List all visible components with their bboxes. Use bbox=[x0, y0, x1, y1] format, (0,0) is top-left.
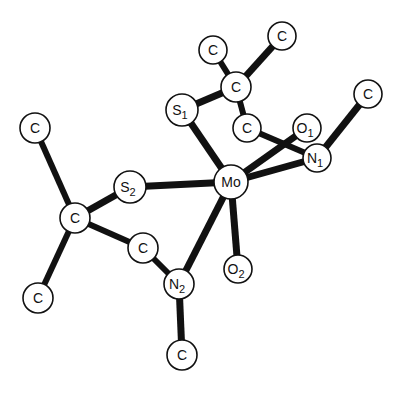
atom-c4: C bbox=[233, 114, 261, 142]
atom-label: C bbox=[277, 28, 287, 44]
atom-mo: Mo bbox=[214, 165, 248, 199]
atom-o1: O1 bbox=[293, 114, 321, 142]
atom-c7: C bbox=[60, 203, 90, 233]
atom-n1: N1 bbox=[303, 144, 331, 172]
atom-s2: S2 bbox=[114, 171, 146, 203]
atom-label: C bbox=[177, 347, 187, 363]
atom-c9: C bbox=[128, 233, 158, 263]
molecular-structure-diagram: MoS1S2O1O2N1N2CCCCCCCCCC bbox=[0, 0, 401, 393]
atom-label: C bbox=[242, 120, 252, 136]
atom-label: Mo bbox=[221, 174, 241, 190]
atom-o2: O2 bbox=[224, 255, 252, 283]
atom-label: C bbox=[30, 120, 40, 136]
atom-c8: C bbox=[23, 283, 53, 313]
atom-c5: C bbox=[354, 80, 382, 108]
atom-label: C bbox=[208, 42, 218, 58]
atom-c3: C bbox=[221, 72, 251, 102]
atom-label: C bbox=[231, 79, 241, 95]
atom-label: C bbox=[33, 290, 43, 306]
atom-label: C bbox=[70, 210, 80, 226]
atom-c6: C bbox=[20, 113, 50, 143]
background bbox=[0, 0, 401, 393]
atom-c2: C bbox=[268, 22, 296, 50]
atom-label: C bbox=[138, 240, 148, 256]
atom-c1: C bbox=[199, 36, 227, 64]
atom-c10: C bbox=[167, 340, 197, 370]
atom-n2: N2 bbox=[164, 269, 194, 299]
atom-label: C bbox=[363, 86, 373, 102]
atom-s1: S1 bbox=[166, 94, 198, 126]
